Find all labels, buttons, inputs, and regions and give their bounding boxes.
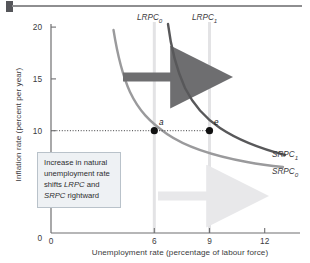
explanation-line-4-post: rightward — [65, 191, 99, 200]
explanation-line-1: Increase in natural — [44, 158, 107, 167]
y-tick-label-0: 0 — [22, 233, 42, 243]
lrpc1-label: LRPC1 — [192, 13, 217, 24]
point-label-a: a — [159, 118, 164, 127]
x-tick-label-0: 0 — [41, 236, 61, 246]
lrpc0-label-text: LRPC — [137, 13, 159, 22]
srpc1-curve — [168, 24, 285, 155]
lrpc1-label-text: LRPC — [192, 13, 214, 22]
srpc1-label-text: SRPC — [272, 150, 295, 159]
point-label-e: e — [214, 118, 219, 127]
srpc0-label-sub: 0 — [295, 171, 298, 178]
srpc1-label: SRPC1 — [272, 150, 298, 161]
srpc1-label-sub: 1 — [295, 154, 298, 161]
explanation-lrpc-emphasis: LRPC — [64, 180, 85, 189]
x-tick-label-6: 6 — [144, 236, 164, 246]
plot-area — [0, 0, 310, 263]
explanation-line-3-post: and — [85, 180, 100, 189]
x-axis-title: Unemployment rate (percentage of labour … — [55, 248, 305, 257]
y-tick-label-10: 10 — [22, 126, 42, 136]
data-point-a — [151, 127, 158, 134]
lrpc0-label: LRPC0 — [137, 13, 162, 24]
x-tick-label-12: 12 — [255, 236, 275, 246]
explanation-box: Increase in natural unemployment rate sh… — [37, 152, 121, 208]
srpc0-label-text: SRPC — [272, 167, 295, 176]
lrpc1-label-sub: 1 — [214, 17, 217, 24]
explanation-srpc-emphasis: SRPC — [44, 191, 65, 200]
srpc0-label: SRPC0 — [272, 167, 298, 178]
x-tick-label-9: 9 — [200, 236, 220, 246]
lrpc0-label-sub: 0 — [159, 17, 162, 24]
data-point-e — [206, 127, 213, 134]
phillips-curve-figure: Inflation rate (percent per year) Unempl… — [0, 0, 310, 263]
explanation-line-2: unemployment rate — [44, 169, 110, 178]
explanation-line-3-pre: shifts — [44, 180, 64, 189]
y-tick-label-15: 15 — [22, 74, 42, 84]
y-tick-label-20: 20 — [22, 22, 42, 32]
